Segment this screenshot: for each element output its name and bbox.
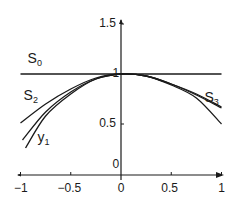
series-label-y1: y1	[38, 130, 50, 147]
x-tick-label: 0.5	[161, 182, 178, 194]
y-tick-label: 0.5	[99, 117, 116, 129]
y-axis-arrow-icon	[119, 19, 123, 24]
y-tick-label: 0	[112, 158, 119, 170]
x-axis-arrow-icon	[216, 172, 224, 178]
series-label-s3: S3	[204, 90, 218, 107]
y-tick-label: 1	[112, 67, 119, 79]
curve-s3	[23, 74, 222, 140]
series-label-s0: S0	[28, 51, 42, 68]
curve-y1	[26, 74, 222, 148]
series-label-s2: S2	[24, 88, 38, 105]
x-tick-label: −1	[14, 182, 28, 194]
x-tick-label: 0	[118, 182, 125, 194]
axes	[17, 19, 224, 180]
x-tick-label: −0.5	[58, 182, 82, 194]
y-tick-label: 1.5	[99, 17, 116, 29]
x-tick-label: 1	[218, 182, 225, 194]
